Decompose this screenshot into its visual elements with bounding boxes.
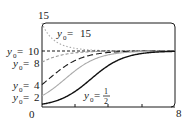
svg-text:y: y <box>83 89 89 101</box>
x-max-label: 8 <box>176 107 182 119</box>
curves <box>42 23 175 104</box>
label-y0-15: y 0 = 15 <box>56 27 92 42</box>
svg-text:y: y <box>12 57 18 69</box>
svg-text:=: = <box>23 57 29 69</box>
svg-text:2: 2 <box>34 91 40 103</box>
svg-text:=: = <box>23 79 29 91</box>
y-max-label: 15 <box>38 9 50 21</box>
svg-text:=: = <box>94 89 100 101</box>
logistic-chart: 15 0 8 y 0 = 15 y 0 = 10 y 0 = 8 y 0 = 4… <box>0 0 185 126</box>
label-y0-8: y 0 = 8 <box>12 57 40 72</box>
svg-text:15: 15 <box>80 27 92 39</box>
svg-text:y: y <box>12 91 18 103</box>
svg-text:8: 8 <box>34 57 40 69</box>
svg-text:=: = <box>23 91 29 103</box>
svg-text:y: y <box>56 27 62 39</box>
svg-text:=: = <box>17 45 23 57</box>
curve-2 <box>42 51 175 96</box>
x-origin-label: 0 <box>29 108 35 120</box>
svg-text:=: = <box>67 27 73 39</box>
svg-text:1: 1 <box>104 87 108 96</box>
label-y0-half: y 0 = 1 2 <box>83 87 110 106</box>
svg-text:y: y <box>6 45 12 57</box>
curve-4 <box>42 51 175 85</box>
svg-text:4: 4 <box>34 79 40 91</box>
curve-15 <box>42 23 175 51</box>
svg-text:2: 2 <box>104 97 108 106</box>
svg-text:10: 10 <box>28 45 40 57</box>
label-y0-2: y 0 = 2 <box>12 91 40 106</box>
svg-text:y: y <box>12 79 18 91</box>
